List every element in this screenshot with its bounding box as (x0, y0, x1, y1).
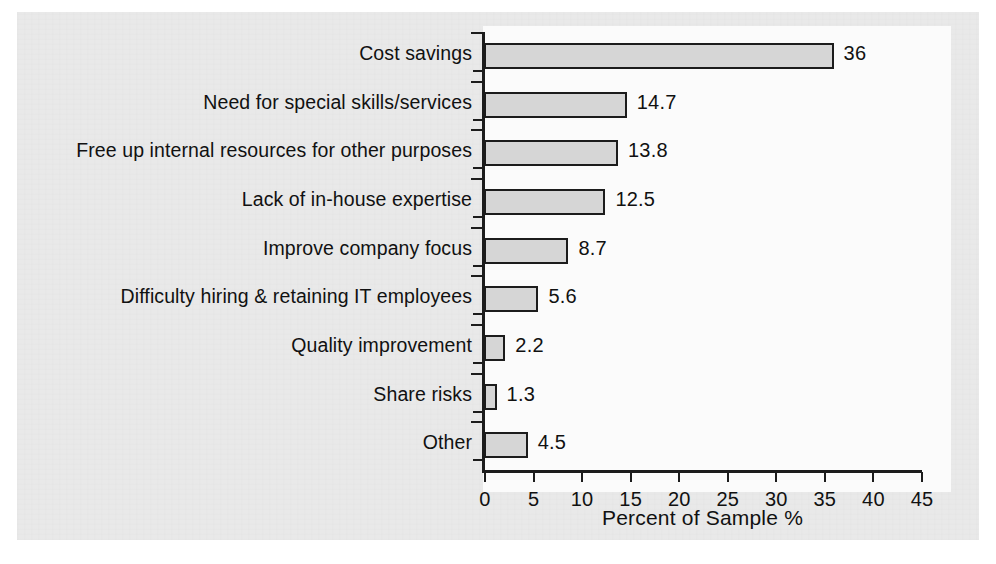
plot-area: 36Cost savings14.7Need for special skill… (484, 32, 921, 470)
y-axis-tick (471, 81, 483, 83)
scanned-page: 36Cost savings14.7Need for special skill… (0, 0, 996, 564)
bar-value-label: 1.3 (507, 383, 535, 406)
x-axis-tick (533, 472, 535, 482)
y-axis-tick (471, 275, 483, 277)
bar (484, 335, 505, 361)
bar-value-label: 36 (844, 42, 867, 65)
bar-row: 14.7Need for special skills/services (484, 81, 921, 130)
y-axis-minor-tick (473, 313, 483, 315)
category-label-wrap: Need for special skills/services (12, 81, 472, 130)
bar-row: 36Cost savings (484, 32, 921, 81)
category-label: Cost savings (12, 42, 472, 65)
bar-value-label: 2.2 (515, 334, 543, 357)
x-axis-tick (824, 472, 826, 482)
y-axis-tick (471, 421, 483, 423)
y-axis-minor-tick (473, 216, 483, 218)
bar-row: 12.5Lack of in-house expertise (484, 178, 921, 227)
x-axis-tick (872, 472, 874, 482)
category-label-wrap: Difficulty hiring & retaining IT employe… (12, 275, 472, 324)
category-label: Quality improvement (12, 334, 472, 357)
bar-row: 5.6Difficulty hiring & retaining IT empl… (484, 275, 921, 324)
y-axis-tick (471, 227, 483, 229)
bar (484, 286, 538, 312)
bar (484, 238, 568, 264)
bar-row: 8.7Improve company focus (484, 227, 921, 276)
bar-chart-figure: 36Cost savings14.7Need for special skill… (0, 0, 996, 564)
category-label-wrap: Quality improvement (12, 324, 472, 373)
bar (484, 92, 627, 118)
y-axis-tick (471, 32, 483, 34)
bar-value-label: 14.7 (637, 91, 677, 114)
category-label-wrap: Cost savings (12, 32, 472, 81)
y-axis-minor-tick (473, 265, 483, 267)
x-axis-line (482, 470, 922, 473)
category-label: Improve company focus (12, 237, 472, 260)
x-axis-tick (921, 472, 923, 482)
bar-value-label: 13.8 (628, 139, 668, 162)
bar-row: 1.3Share risks (484, 373, 921, 422)
bar-row: 4.5Other (484, 421, 921, 470)
bar-value-label: 5.6 (548, 285, 576, 308)
bar-value-label: 12.5 (615, 188, 655, 211)
y-axis-minor-tick (473, 411, 483, 413)
category-label-wrap: Free up internal resources for other pur… (12, 129, 472, 178)
y-axis-tick (471, 178, 483, 180)
x-axis-tick (775, 472, 777, 482)
x-axis-title: Percent of Sample % (484, 506, 921, 530)
bar-row: 2.2Quality improvement (484, 324, 921, 373)
bar (484, 384, 497, 410)
bar-value-label: 4.5 (538, 431, 566, 454)
y-axis-minor-tick (473, 119, 483, 121)
y-axis-tick (471, 129, 483, 131)
x-axis-tick (727, 472, 729, 482)
x-axis-tick (678, 472, 680, 482)
category-label: Free up internal resources for other pur… (12, 139, 472, 162)
category-label-wrap: Lack of in-house expertise (12, 178, 472, 227)
category-label-wrap: Improve company focus (12, 227, 472, 276)
category-label-wrap: Share risks (12, 373, 472, 422)
bar-value-label: 8.7 (578, 237, 606, 260)
category-label: Need for special skills/services (12, 91, 472, 114)
bar (484, 189, 605, 215)
category-label: Difficulty hiring & retaining IT employe… (12, 285, 472, 308)
y-axis-minor-tick (473, 459, 483, 461)
bar (484, 43, 834, 69)
y-axis-tick (471, 324, 483, 326)
bar (484, 140, 618, 166)
y-axis-minor-tick (473, 70, 483, 72)
x-axis-tick (581, 472, 583, 482)
x-axis-tick (484, 472, 486, 482)
y-axis-minor-tick (473, 167, 483, 169)
category-label-wrap: Other (12, 421, 472, 470)
category-label: Other (12, 431, 472, 454)
bar (484, 432, 528, 458)
y-axis-minor-tick (473, 362, 483, 364)
x-axis-tick (630, 472, 632, 482)
category-label: Share risks (12, 383, 472, 406)
y-axis-tick (471, 373, 483, 375)
category-label: Lack of in-house expertise (12, 188, 472, 211)
bar-row: 13.8Free up internal resources for other… (484, 129, 921, 178)
